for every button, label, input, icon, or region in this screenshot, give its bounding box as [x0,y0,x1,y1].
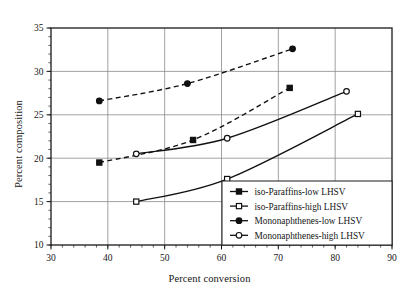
y-tick-label: 20 [34,154,44,164]
legend-label: iso-Paraffins-high LHSV [255,202,349,212]
legend-label: Mononaphthenes-low LHSV [255,216,363,226]
x-tick-label: 70 [274,253,284,263]
data-point-marker [236,189,241,194]
chart-legend: iso-Paraffins-low LHSViso-Paraffins-high… [222,181,392,245]
data-point-marker [236,204,241,209]
data-point-marker [133,151,139,157]
legend-label: iso-Paraffins-low LHSV [255,187,346,197]
x-tick-label: 90 [387,253,397,263]
data-point-marker [97,160,102,165]
x-tick-label: 40 [103,253,113,263]
data-point-marker [185,81,191,87]
legend-label: Mononaphthenes-high LHSV [255,231,366,241]
y-tick-label: 35 [34,23,44,33]
data-series [97,46,296,104]
series-line [99,88,289,163]
data-point-marker [224,135,230,141]
x-axis-title: Percent conversion [0,273,419,284]
data-point-marker [97,98,103,104]
x-tick-label: 60 [217,253,227,263]
data-point-marker [236,233,242,239]
data-point-marker [355,111,360,116]
x-tick-labels: 30405060708090 [46,253,397,263]
y-axis-title: Percent composition [13,64,24,224]
x-tick-label: 80 [330,253,340,263]
y-tick-label: 10 [34,240,44,250]
y-tick-label: 25 [34,110,44,120]
x-tick-label: 50 [160,253,170,263]
data-point-marker [290,46,296,52]
series-line [136,91,346,153]
data-point-marker [190,137,195,142]
y-tick-labels: 101520253035 [34,23,44,250]
series-line [99,49,292,101]
data-point-marker [134,199,139,204]
data-point-marker [287,85,292,90]
data-point-marker [236,218,242,224]
y-tick-label: 15 [34,197,44,207]
data-series [133,89,349,157]
data-series-layer [97,46,361,204]
chart-figure: 30405060708090 101520253035 iso-Paraffin… [0,0,419,288]
x-tick-label: 30 [46,253,56,263]
y-tick-label: 30 [34,67,44,77]
plot-canvas: 30405060708090 101520253035 iso-Paraffin… [0,0,419,288]
data-point-marker [344,89,350,95]
